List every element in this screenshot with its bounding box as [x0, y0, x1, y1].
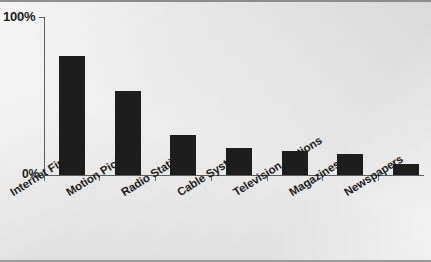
bar	[337, 154, 363, 175]
plot-area: 100% 0% Internet FirmsMotion PicturesRad…	[0, 0, 431, 262]
bar-chart: 100% 0% Internet FirmsMotion PicturesRad…	[0, 0, 431, 262]
y-axis-tick-100	[39, 17, 45, 18]
y-axis-label-max: 100%	[3, 9, 35, 24]
y-axis-line	[44, 17, 45, 175]
